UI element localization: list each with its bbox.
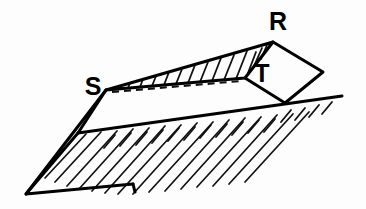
vertex-label-t: T — [254, 59, 269, 87]
ground-tick — [264, 119, 275, 132]
ground-tick — [281, 110, 291, 122]
geometric-figure-canvas: R T S — [0, 0, 366, 209]
plane-corner-tick — [133, 184, 135, 192]
ground-tick — [152, 130, 163, 143]
plane-hatch-line — [165, 120, 229, 191]
wedge-hatch-line — [188, 65, 195, 83]
ground-tick — [200, 125, 211, 138]
plane-hatch-line — [92, 128, 149, 191]
diagram-svg: R T S — [0, 0, 366, 209]
ground-tick — [184, 127, 195, 140]
plane-hatch-line — [245, 112, 309, 182]
ground-tick — [136, 132, 147, 145]
plane-hatch-line — [213, 115, 277, 186]
ground-tick — [104, 135, 115, 148]
upper-wedge-outline — [106, 42, 273, 90]
ground-tick — [248, 120, 259, 133]
plane-hatch-line — [79, 129, 133, 189]
vertex-label-s: S — [85, 72, 102, 100]
wedge-hatch-line — [224, 55, 234, 80]
wedge-hatch-line — [212, 58, 221, 81]
wedge-hatch-line — [236, 51, 247, 79]
ground-tick — [309, 105, 319, 117]
plane-hatch-line — [133, 123, 197, 194]
ground-tick — [216, 124, 227, 137]
plane-hatch-line — [197, 117, 261, 187]
ground-tick — [120, 133, 131, 146]
ground-tick — [232, 122, 243, 135]
wedge-hatch-line — [200, 62, 208, 82]
plane-hatch-line — [181, 118, 245, 189]
ground-tick — [168, 128, 179, 141]
ground-tick — [322, 102, 332, 114]
wedge-hatch-line — [176, 69, 182, 84]
vertex-label-r: R — [269, 7, 287, 35]
